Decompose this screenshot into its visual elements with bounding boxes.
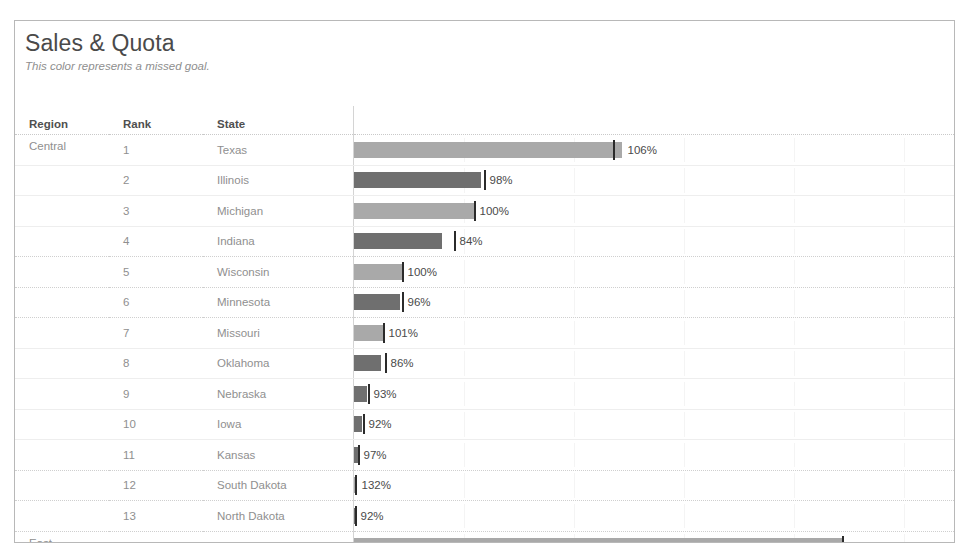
sales-bar-missed-goal[interactable]	[354, 172, 481, 188]
table-row[interactable]: 12South Dakota132%	[15, 470, 954, 501]
cell-state: Nebraska	[203, 379, 353, 410]
gridline	[574, 504, 575, 529]
cell-bullet-chart[interactable]: 100%	[353, 196, 954, 227]
cell-state: Kansas	[203, 440, 353, 471]
sales-bar-met-goal[interactable]	[354, 142, 622, 158]
gridline	[464, 504, 465, 529]
percent-of-quota-label: 100%	[848, 538, 877, 543]
sales-quota-table: Region Rank State Central1Texas106%2Illi…	[15, 106, 954, 543]
percent-of-quota-label: 84%	[460, 233, 483, 249]
cell-rank: 5	[109, 257, 203, 288]
cell-region	[15, 379, 109, 410]
gridline	[904, 321, 905, 346]
table-row[interactable]: 10Iowa92%	[15, 409, 954, 440]
gridline	[684, 443, 685, 468]
cell-state: Iowa	[203, 409, 353, 440]
cell-state: Minnesota	[203, 287, 353, 318]
table-row[interactable]: 11Kansas97%	[15, 440, 954, 471]
sales-bar-met-goal[interactable]	[354, 264, 402, 280]
quota-reference-marker	[363, 414, 365, 434]
quota-reference-marker	[402, 262, 404, 282]
cell-state: Oklahoma	[203, 348, 353, 379]
sales-bar-missed-goal[interactable]	[354, 416, 362, 432]
quota-reference-marker	[358, 445, 360, 465]
cell-rank: 13	[109, 501, 203, 532]
percent-of-quota-label: 92%	[369, 416, 392, 432]
table-row[interactable]: 13North Dakota92%	[15, 501, 954, 532]
table-row[interactable]: 9Nebraska93%	[15, 379, 954, 410]
cell-bullet-chart[interactable]: 101%	[353, 318, 954, 349]
cell-bullet-chart[interactable]: 106%	[353, 135, 954, 166]
cell-rank: 7	[109, 318, 203, 349]
table-row[interactable]: 8Oklahoma86%	[15, 348, 954, 379]
sales-bar-missed-goal[interactable]	[354, 233, 442, 249]
gridline	[684, 290, 685, 315]
sales-bar-met-goal[interactable]	[354, 325, 383, 341]
gridline	[794, 443, 795, 468]
cell-region: Central	[15, 135, 109, 166]
table-body: Central1Texas106%2Illinois98%3Michigan10…	[15, 135, 954, 544]
gridline	[464, 260, 465, 285]
gridline	[684, 351, 685, 376]
percent-of-quota-label: 132%	[362, 477, 391, 493]
sales-bar-met-goal[interactable]	[354, 538, 842, 543]
bullet-chart: 96%	[354, 290, 955, 315]
cell-region	[15, 501, 109, 532]
gridline	[904, 199, 905, 224]
table-row[interactable]: 5Wisconsin100%	[15, 257, 954, 288]
cell-bullet-chart[interactable]: 132%	[353, 470, 954, 501]
quota-reference-marker	[355, 475, 357, 495]
gridline	[794, 229, 795, 254]
bullet-chart: 84%	[354, 229, 955, 254]
table-header-row: Region Rank State	[15, 106, 954, 135]
sales-bar-missed-goal[interactable]	[354, 355, 381, 371]
table-row[interactable]: 2Illinois98%	[15, 165, 954, 196]
gridline	[684, 473, 685, 498]
cell-bullet-chart[interactable]: 98%	[353, 165, 954, 196]
table-row[interactable]: 6Minnesota96%	[15, 287, 954, 318]
cell-rank: 8	[109, 348, 203, 379]
cell-bullet-chart[interactable]: 97%	[353, 440, 954, 471]
percent-of-quota-label: 86%	[391, 355, 414, 371]
cell-bullet-chart[interactable]: 96%	[353, 287, 954, 318]
quota-reference-marker	[613, 140, 615, 160]
table-row[interactable]: 7Missouri101%	[15, 318, 954, 349]
crosstab-container[interactable]: Region Rank State Central1Texas106%2Illi…	[15, 106, 954, 543]
table-row[interactable]: 4Indiana84%	[15, 226, 954, 257]
cell-state: Illinois	[203, 165, 353, 196]
column-header-region[interactable]: Region	[15, 106, 109, 135]
quota-reference-marker	[355, 506, 357, 526]
gridline	[574, 351, 575, 376]
column-header-state[interactable]: State	[203, 106, 353, 135]
viz-subtitle-legend: This color represents a missed goal.	[25, 58, 725, 74]
column-header-rank[interactable]: Rank	[109, 106, 203, 135]
cell-region	[15, 348, 109, 379]
table-row[interactable]: Central1Texas106%	[15, 135, 954, 166]
cell-bullet-chart[interactable]: 86%	[353, 348, 954, 379]
gridline	[794, 504, 795, 529]
gridline	[464, 473, 465, 498]
gridline	[794, 473, 795, 498]
bullet-chart: 98%	[354, 168, 955, 193]
bullet-chart: 101%	[354, 321, 955, 346]
cell-state: Missouri	[203, 318, 353, 349]
cell-bullet-chart[interactable]: 92%	[353, 501, 954, 532]
column-header-percent-of-quota[interactable]	[353, 106, 954, 135]
sales-bar-met-goal[interactable]	[354, 203, 474, 219]
table-row[interactable]: 3Michigan100%	[15, 196, 954, 227]
gridline	[574, 260, 575, 285]
gridline	[794, 321, 795, 346]
bullet-chart: 106%	[354, 138, 955, 163]
gridline	[904, 290, 905, 315]
gridline	[904, 412, 905, 437]
table-bottom-rule	[15, 542, 955, 543]
sales-bar-missed-goal[interactable]	[354, 294, 400, 310]
gridline	[794, 168, 795, 193]
sales-bar-missed-goal[interactable]	[354, 386, 367, 402]
cell-bullet-chart[interactable]: 100%	[353, 257, 954, 288]
cell-state: Michigan	[203, 196, 353, 227]
cell-bullet-chart[interactable]: 92%	[353, 409, 954, 440]
cell-bullet-chart[interactable]: 84%	[353, 226, 954, 257]
cell-bullet-chart[interactable]: 93%	[353, 379, 954, 410]
cell-region	[15, 318, 109, 349]
